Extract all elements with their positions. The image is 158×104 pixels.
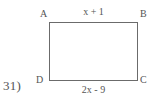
vertex-label-d: D bbox=[36, 75, 43, 85]
side-label-bottom: 2x - 9 bbox=[49, 85, 138, 95]
side-label-top: x + 1 bbox=[49, 7, 138, 17]
vertex-label-b: B bbox=[140, 9, 147, 19]
problem-number: 31) bbox=[3, 79, 21, 92]
geometry-figure: 31) x + 1 A B D C 2x - 9 bbox=[0, 0, 158, 104]
rectangle-shape bbox=[49, 22, 138, 81]
vertex-label-c: C bbox=[140, 75, 147, 85]
vertex-label-a: A bbox=[40, 9, 47, 19]
